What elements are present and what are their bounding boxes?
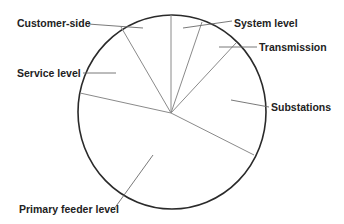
label-service-level: Service level (17, 67, 81, 79)
label-substations: Substations (271, 101, 331, 113)
label-transmission: Transmission (259, 41, 327, 53)
label-system-level: System level (234, 17, 298, 29)
pie-chart: Customer-side System level Transmission … (0, 0, 344, 224)
label-primary-feeder-level: Primary feeder level (19, 203, 119, 215)
label-customer-side: Customer-side (17, 17, 91, 29)
